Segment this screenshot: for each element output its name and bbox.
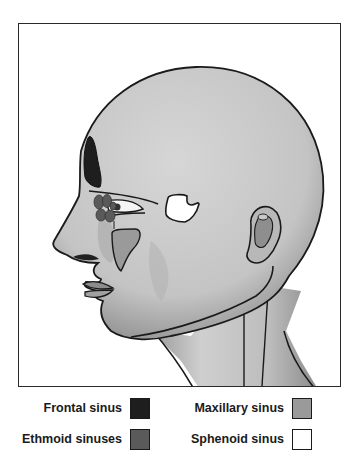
- sphenoid-swatch: [292, 429, 312, 450]
- legend-item-frontal-sinus: Frontal sinus: [20, 396, 150, 420]
- legend-label: Maxillary sinus: [194, 401, 284, 415]
- legend-label: Frontal sinus: [44, 401, 122, 415]
- legend-item-sphenoid-sinus: Sphenoid sinus: [180, 427, 312, 451]
- maxillary-swatch: [292, 398, 312, 419]
- legend-label: Ethmoid sinuses: [22, 432, 122, 446]
- head-illustration: [18, 23, 341, 387]
- legend-item-ethmoid-sinuses: Ethmoid sinuses: [20, 427, 150, 451]
- ethmoid-swatch: [130, 429, 150, 450]
- frontal-swatch: [130, 398, 150, 419]
- legend-item-maxillary-sinus: Maxillary sinus: [180, 396, 312, 420]
- legend-label: Sphenoid sinus: [191, 432, 284, 446]
- illustration-frame: [18, 23, 341, 387]
